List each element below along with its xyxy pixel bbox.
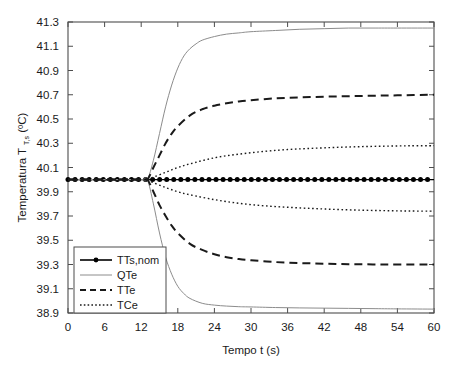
x-tick-label: 60 [428, 321, 441, 333]
x-axis-title: Tempo t (s) [222, 344, 280, 356]
series-marker [369, 177, 374, 182]
series-marker [185, 177, 190, 182]
y-tick-label: 40.9 [37, 65, 59, 77]
series-marker [348, 177, 353, 182]
series-marker [284, 177, 289, 182]
x-axis-title-text: Tempo t (s) [222, 344, 280, 356]
series-marker [221, 177, 226, 182]
series-marker [340, 177, 345, 182]
x-tick-label: 36 [281, 321, 294, 333]
y-axis-title-group: Temperatura T T,s (ºC) [16, 112, 30, 222]
chart-legend: TTs,nomQTeTTeTCe [74, 247, 166, 313]
series-marker [418, 177, 423, 182]
series-marker [383, 177, 388, 182]
series-marker [319, 177, 324, 182]
y-axis-title: Temperatura T T,s (ºC) [16, 112, 30, 222]
series-marker [312, 177, 317, 182]
series-marker [256, 177, 261, 182]
x-tick-label: 6 [101, 321, 107, 333]
x-tick-label: 24 [208, 321, 221, 333]
series-marker [270, 177, 275, 182]
series-marker [333, 177, 338, 182]
series-line-TCe-lower [68, 179, 434, 211]
series-marker [171, 177, 176, 182]
series-marker [376, 177, 381, 182]
series-line-QTe-upper [68, 28, 434, 181]
y-tick-label: 39.9 [37, 186, 59, 198]
x-tick-label: 30 [245, 321, 258, 333]
legend-label-TTe: TTe [117, 284, 135, 296]
series-marker [291, 177, 296, 182]
series-marker [192, 177, 197, 182]
series-marker [157, 177, 162, 182]
series-marker [362, 177, 367, 182]
series-marker [425, 177, 430, 182]
y-tick-label: 41.3 [37, 16, 59, 28]
series-marker [199, 177, 204, 182]
series-marker [355, 177, 360, 182]
series-marker [214, 177, 219, 182]
series-marker [178, 177, 183, 182]
x-tick-label: 48 [354, 321, 367, 333]
y-tick-label: 40.5 [37, 113, 59, 125]
y-tick-labels: 38.939.139.339.539.739.940.140.340.540.7… [37, 16, 59, 319]
series-marker [411, 177, 416, 182]
series-marker [207, 177, 212, 182]
series-line-TCe-upper [68, 146, 434, 180]
y-tick-label: 40.7 [37, 89, 59, 101]
x-tick-label: 18 [171, 321, 184, 333]
legend-label-QTe: QTe [117, 269, 137, 281]
y-tick-label: 40.3 [37, 137, 59, 149]
series-marker [235, 177, 240, 182]
y-tick-label: 39.1 [37, 283, 59, 295]
y-tick-label: 38.9 [37, 307, 59, 319]
series-marker [298, 177, 303, 182]
series-marker [164, 177, 169, 182]
legend-label-TTs,nom: TTs,nom [117, 254, 159, 266]
legend-marker-TTs,nom [94, 258, 99, 263]
y-tick-label: 39.5 [37, 234, 59, 246]
line-chart: 06121824303642485460 38.939.139.339.539.… [0, 0, 461, 371]
series-line-TTe-upper [68, 95, 434, 181]
x-tick-label: 12 [135, 321, 148, 333]
y-tick-label: 39.3 [37, 259, 59, 271]
series-marker [326, 177, 331, 182]
chart-figure: 06121824303642485460 38.939.139.339.539.… [0, 0, 461, 371]
x-tick-labels: 06121824303642485460 [65, 321, 441, 333]
legend-label-TCe: TCe [117, 299, 138, 311]
series-marker [305, 177, 310, 182]
series-marker [277, 177, 282, 182]
y-tick-label: 40.1 [37, 162, 59, 174]
x-tick-label: 54 [391, 321, 404, 333]
series-marker [228, 177, 233, 182]
series-marker [242, 177, 247, 182]
y-tick-label: 41.1 [37, 40, 59, 52]
series-marker [390, 177, 395, 182]
y-tick-label: 39.7 [37, 210, 59, 222]
series-marker [249, 177, 254, 182]
series-marker [404, 177, 409, 182]
x-tick-label: 42 [318, 321, 331, 333]
series-marker [397, 177, 402, 182]
x-tick-label: 0 [65, 321, 71, 333]
series-marker [263, 177, 268, 182]
y-axis-title-text: Temperatura T T,s (ºC) [16, 112, 30, 222]
